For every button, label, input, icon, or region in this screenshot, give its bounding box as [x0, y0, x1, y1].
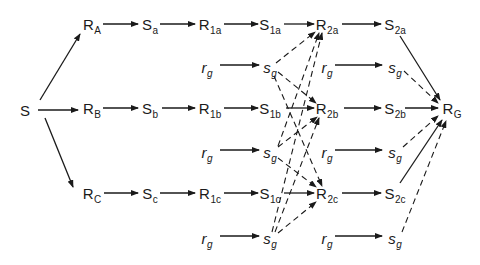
node-label: R [316, 185, 327, 202]
edge-sg2-to-r2c-arrow [278, 158, 316, 187]
node-subscript: g [271, 239, 277, 250]
node-rg2: rg [201, 145, 212, 164]
node-sg6: sg [388, 231, 402, 250]
node-sg2: sg [263, 145, 277, 164]
node-label: s [263, 230, 271, 247]
node-r2a: R2a [316, 17, 338, 36]
node-r1b: R1b [199, 101, 221, 120]
edge-s-to-rc-arrow [45, 118, 73, 187]
node-rg6: rg [321, 231, 332, 250]
node-subscript: g [327, 68, 333, 79]
node-label: S [259, 16, 269, 33]
node-label: S [142, 100, 152, 117]
node-subscript: C [94, 194, 101, 205]
node-label: R [199, 100, 210, 117]
node-s2b: S2b [384, 101, 406, 120]
node-subscript: 1a [210, 25, 221, 36]
node-label: S [384, 100, 394, 117]
node-subscript: 1c [270, 194, 281, 205]
node-label: s [388, 144, 396, 161]
node-label: S [384, 185, 394, 202]
node-label: s [388, 59, 396, 76]
node-subscript: 2b [327, 109, 338, 120]
node-sg3: sg [263, 231, 277, 250]
node-subscript: 1a [270, 25, 281, 36]
edges-layer [0, 0, 480, 265]
node-subscript: 2b [395, 109, 406, 120]
node-label: R [199, 16, 210, 33]
node-rg: RG [442, 101, 461, 120]
node-label: R [199, 185, 210, 202]
node-sg4: sg [388, 60, 402, 79]
node-label: S [20, 102, 30, 119]
node-subscript: A [94, 25, 101, 36]
node-sg1: sg [263, 60, 277, 79]
node-label: R [83, 100, 94, 117]
node-subscript: 2a [327, 25, 338, 36]
node-subscript: g [271, 153, 277, 164]
node-subscript: g [396, 239, 402, 250]
edge-sg5-to-rg-arrow [403, 116, 438, 147]
node-label: r [321, 144, 326, 161]
node-subscript: g [207, 68, 213, 79]
edge-sg1-to-r2a-arrow [276, 32, 315, 63]
node-s1c: S1c [259, 186, 280, 205]
node-s2a: S2a [384, 17, 406, 36]
node-subscript: g [327, 153, 333, 164]
edge-s2a-to-rg-arrow [400, 36, 440, 100]
stimulus-response-diagram: SRARBRCSaSbScR1aR1bR1crgrgrgS1aS1bS1csgs… [0, 0, 480, 265]
node-label: S [142, 185, 152, 202]
node-label: R [316, 16, 327, 33]
node-subscript: g [207, 239, 213, 250]
node-subscript: g [396, 68, 402, 79]
node-sg5: sg [388, 145, 402, 164]
node-r1a: R1a [199, 17, 221, 36]
node-subscript: g [327, 239, 333, 250]
node-r1c: R1c [199, 186, 221, 205]
node-label: R [316, 100, 327, 117]
node-label: r [321, 230, 326, 247]
node-sa: Sa [142, 17, 158, 36]
node-r2c: R2c [316, 186, 338, 205]
edge-sg4-to-rg-arrow [404, 71, 438, 103]
node-rg1: rg [201, 60, 212, 79]
node-label: s [263, 144, 271, 161]
node-subscript: 2a [395, 25, 406, 36]
node-label: S [259, 100, 269, 117]
node-subscript: 2c [395, 194, 406, 205]
node-label: s [388, 230, 396, 247]
node-subscript: 2c [327, 194, 338, 205]
node-label: S [142, 16, 152, 33]
node-label: r [201, 144, 206, 161]
node-label: r [201, 230, 206, 247]
node-subscript: 1b [270, 109, 281, 120]
node-s: S [20, 103, 30, 118]
node-label: r [201, 59, 206, 76]
node-s1b: S1b [259, 101, 281, 120]
node-sb: Sb [142, 101, 158, 120]
node-s1a: S1a [259, 17, 281, 36]
node-ra: RA [83, 17, 101, 36]
edge-s2c-to-rg-arrow [400, 120, 442, 183]
node-subscript: 1c [210, 194, 221, 205]
node-rg4: rg [321, 60, 332, 79]
node-rg3: rg [201, 231, 212, 250]
node-label: R [83, 185, 94, 202]
node-subscript: g [396, 153, 402, 164]
node-label: R [83, 16, 94, 33]
edge-sg3-to-r2c-arrow [278, 202, 316, 233]
node-subscript: B [94, 109, 101, 120]
node-subscript: b [152, 109, 158, 120]
node-label: R [442, 100, 453, 117]
node-s2c: S2c [384, 186, 405, 205]
node-rc: RC [83, 186, 102, 205]
node-subscript: g [271, 68, 277, 79]
node-rg5: rg [321, 145, 332, 164]
node-rb: RB [83, 101, 101, 120]
node-subscript: g [207, 153, 213, 164]
node-subscript: 1b [210, 109, 221, 120]
edge-s-to-ra-arrow [40, 34, 80, 100]
node-subscript: c [153, 194, 158, 205]
node-label: s [263, 59, 271, 76]
node-subscript: G [454, 109, 462, 120]
